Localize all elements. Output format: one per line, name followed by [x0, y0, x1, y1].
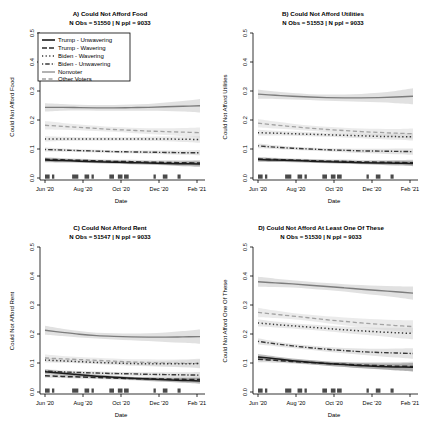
legend-label-0: Trump - Unwavering: [58, 37, 112, 43]
rug-tick: [258, 389, 263, 393]
rug-tick: [391, 389, 394, 393]
rug-tick: [367, 175, 369, 179]
ytick-1: 0.1: [242, 145, 248, 153]
xtick-3: Dec '20: [363, 186, 382, 192]
rug-tick: [118, 389, 123, 393]
rug-tick: [265, 389, 267, 393]
panel-c: C) Could Not Afford Rent N Obs = 51547 |…: [0, 214, 213, 428]
rug-tick: [118, 175, 123, 179]
ytick-3: 0.3: [242, 301, 248, 309]
xtick-1: Aug '20: [74, 400, 93, 406]
panel-d-svg: D) Could Not Afford At Least One Of Thes…: [213, 214, 426, 428]
rug-tick: [337, 389, 342, 393]
rug-tick: [285, 175, 291, 179]
rug-tick: [305, 389, 307, 393]
panel-b: B) Could Not Afford Utilities N Obs = 51…: [213, 0, 426, 214]
ytick-0: 0.0: [29, 388, 35, 396]
rug-tick: [85, 389, 90, 393]
rug-tick: [92, 175, 94, 179]
rug-tick: [376, 175, 381, 179]
panel-d: D) Could Not Afford At Least One Of Thes…: [213, 214, 426, 428]
rug-tick: [285, 389, 291, 393]
rug-tick: [92, 389, 94, 393]
rug-tick: [376, 389, 381, 393]
rug-tick: [154, 175, 156, 179]
rug-tick: [109, 175, 114, 179]
xtick-3: Dec '20: [363, 400, 382, 406]
panel-c-title: C) Could Not Afford Rent: [73, 224, 146, 231]
rug-tick: [52, 389, 54, 393]
xtick-4: Feb '21: [188, 400, 206, 406]
ytick-2: 0.2: [29, 330, 35, 338]
legend-label-5: Other Voters: [58, 76, 92, 82]
rug-tick: [124, 175, 129, 179]
panel-b-svg: B) Could Not Afford Utilities N Obs = 51…: [213, 0, 426, 214]
xtick-4: Feb '21: [401, 400, 419, 406]
ytick-0: 0.0: [29, 174, 35, 182]
xtick-1: Aug '20: [287, 186, 306, 192]
panel-b-subtitle: N Obs = 51553 | N ppl = 9033: [282, 20, 364, 26]
ytick-4: 0.4: [29, 58, 35, 66]
panel-a: A) Could Not Afford Food N Obs = 51550 |…: [0, 0, 213, 214]
rug-tick: [178, 389, 181, 393]
ytick-4: 0.4: [242, 58, 248, 66]
xtick-1: Aug '20: [74, 186, 93, 192]
panel-b-title: B) Could Not Afford Utilities: [282, 10, 364, 17]
ytick-0: 0.0: [242, 388, 248, 396]
ytick-2: 0.2: [242, 116, 248, 124]
panel-a-xlabel: Date: [115, 198, 128, 204]
panel-b-ylabel: Could Not Afford Utilities: [222, 75, 228, 140]
ytick-1: 0.1: [29, 359, 35, 367]
panel-c-svg: C) Could Not Afford Rent N Obs = 51547 |…: [0, 214, 213, 428]
rug-tick: [298, 389, 303, 393]
xtick-2: Oct '20: [112, 400, 130, 406]
rug-tick: [265, 175, 267, 179]
rug-tick: [72, 175, 78, 179]
panel-d-title: D) Could Not Afford At Least One Of Thes…: [258, 224, 384, 231]
legend-label-1: Trump - Wavering: [58, 45, 106, 51]
rug-tick: [322, 175, 327, 179]
ytick-5: 0.5: [29, 29, 35, 37]
panel-a-subtitle: N Obs = 51550 | N ppl = 9033: [69, 20, 151, 26]
rug-tick: [163, 175, 168, 179]
figure-root: A) Could Not Afford Food N Obs = 51550 |…: [0, 0, 426, 428]
panel-a-ylabel: Could Not Afford Food: [9, 77, 15, 136]
panel-c-ylabel: Could Not Afford Rent: [9, 292, 15, 351]
rug-tick: [337, 175, 342, 179]
xtick-2: Oct '20: [325, 400, 343, 406]
xtick-0: Jun '20: [36, 400, 54, 406]
xtick-4: Feb '21: [401, 186, 419, 192]
ytick-3: 0.3: [29, 87, 35, 95]
legend-label-2: Biden - Wavering: [58, 53, 104, 59]
rug-tick: [124, 389, 129, 393]
panel-d-ylabel: Could Not Afford One Of These: [222, 279, 228, 363]
rug-tick: [163, 389, 168, 393]
xtick-0: Jun '20: [249, 400, 267, 406]
ytick-1: 0.1: [242, 359, 248, 367]
rug-tick: [331, 175, 336, 179]
xtick-3: Dec '20: [150, 400, 169, 406]
panel-d-subtitle: N Obs = 51530 | N ppl = 9033: [280, 234, 362, 240]
legend-label-4: Nonvoter: [58, 69, 82, 75]
rug-tick: [154, 389, 156, 393]
rug-tick: [85, 175, 90, 179]
rug-tick: [322, 389, 327, 393]
xtick-2: Oct '20: [325, 186, 343, 192]
legend: Trump - Unwavering Trump - Wavering Bide…: [38, 33, 130, 82]
rug-tick: [298, 175, 303, 179]
rug-tick: [52, 175, 54, 179]
rug-tick: [178, 175, 181, 179]
panel-c-xlabel: Date: [115, 412, 128, 418]
ytick-4: 0.4: [29, 272, 35, 280]
rug-tick: [305, 175, 307, 179]
ytick-1: 0.1: [29, 145, 35, 153]
rug-tick: [331, 389, 336, 393]
rug-tick: [391, 175, 394, 179]
panel-d-xlabel: Date: [328, 412, 341, 418]
rug-tick: [109, 389, 114, 393]
rug-tick: [72, 389, 78, 393]
xtick-3: Dec '20: [150, 186, 169, 192]
panel-b-xlabel: Date: [328, 198, 341, 204]
panel-a-title: A) Could Not Afford Food: [73, 10, 148, 17]
ytick-2: 0.2: [242, 330, 248, 338]
